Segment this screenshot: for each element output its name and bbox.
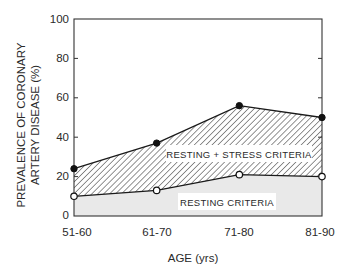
open-circle-marker [153, 187, 159, 193]
open-circle-marker [71, 193, 77, 199]
y-tick-label: 80 [56, 52, 69, 64]
y-tick-label: 0 [63, 209, 69, 221]
x-tick-label: 51-60 [62, 226, 91, 238]
y-tick-label: 100 [50, 13, 69, 25]
resting-stress-label-text: RESTING + STRESS CRITERIA [166, 149, 312, 160]
y-tick-label: 40 [56, 131, 69, 143]
filled-circle-marker [153, 140, 159, 146]
filled-circle-marker [236, 102, 242, 108]
resting-label: RESTING CRITERIA [178, 193, 276, 210]
resting-stress-label: RESTING + STRESS CRITERIA [166, 145, 312, 162]
filled-circle-marker [71, 166, 77, 172]
x-tick-label: 71-80 [224, 226, 253, 238]
resting-label-text: RESTING CRITERIA [180, 197, 274, 208]
y-tick-label: 20 [56, 170, 69, 182]
x-axis-title: AGE (yrs) [168, 252, 219, 264]
x-tick-label: 81-90 [305, 226, 334, 238]
y-axis-title-line1: PREVALENCE OF CORONARY [15, 42, 27, 207]
y-tick-label: 60 [56, 91, 69, 103]
open-circle-marker [319, 173, 325, 179]
coronary-disease-chart: RESTING + STRESS CRITERIA RESTING CRITER… [0, 0, 350, 275]
y-axis-title-line2: ARTERY DISEASE (%) [29, 65, 41, 185]
open-circle-marker [236, 171, 242, 177]
x-tick-label: 61-70 [142, 226, 171, 238]
filled-circle-marker [319, 114, 325, 120]
